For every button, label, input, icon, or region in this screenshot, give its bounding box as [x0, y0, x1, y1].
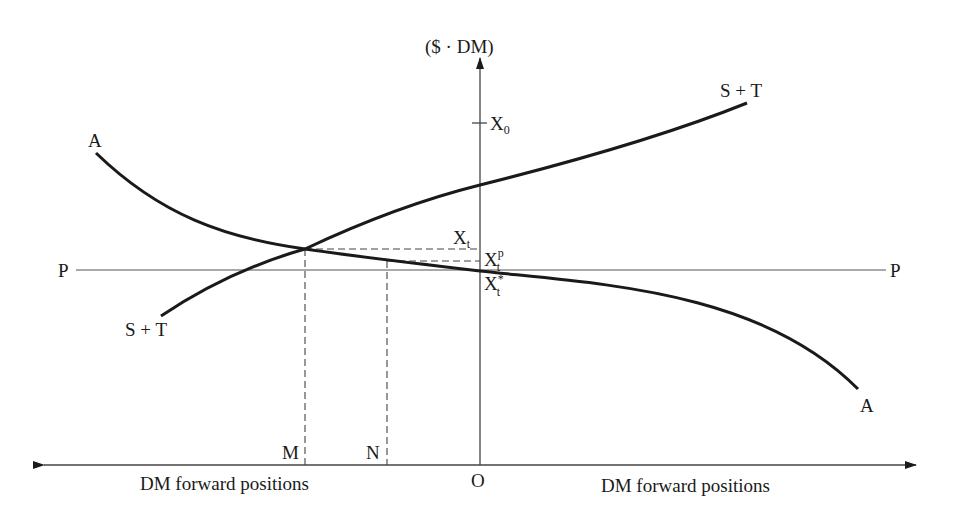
x-axis-left-label: DM forward positions: [140, 473, 309, 494]
curve-s-plus-t: [161, 103, 747, 316]
forward-market-diagram: ($ · DM) X0 Xt Xpt X*t A A S + T S + T P…: [0, 0, 956, 525]
xtstar-label: X*t: [484, 272, 504, 299]
point-m-label: M: [282, 442, 299, 463]
origin-label: O: [471, 470, 485, 491]
curve-a-end-label: A: [860, 395, 874, 416]
curve-a: [96, 153, 858, 389]
xt-label: Xt: [453, 227, 471, 251]
x0-label: X0: [490, 113, 510, 137]
point-n-label: N: [366, 442, 380, 463]
p-line-right-label: P: [890, 260, 901, 281]
y-axis-label: ($ · DM): [425, 36, 494, 58]
curve-st-start-label: S + T: [125, 319, 167, 340]
curve-a-start-label: A: [88, 130, 102, 151]
p-line-left-label: P: [58, 260, 69, 281]
curve-st-end-label: S + T: [720, 80, 762, 101]
x-axis-right-label: DM forward positions: [601, 475, 770, 496]
